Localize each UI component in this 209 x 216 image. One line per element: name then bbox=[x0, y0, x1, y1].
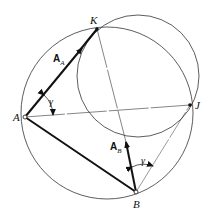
label-vector-A-A: AA bbox=[53, 54, 65, 67]
label-gamma-B: γ bbox=[141, 156, 145, 166]
label-vector-A-B: AB bbox=[110, 142, 122, 155]
line-B-J bbox=[136, 105, 190, 192]
label-gamma-A: γ bbox=[49, 97, 53, 107]
point-K bbox=[95, 27, 99, 31]
point-J bbox=[188, 103, 192, 107]
geometry-figure bbox=[0, 0, 209, 216]
label-K: K bbox=[90, 15, 97, 26]
label-A: A bbox=[13, 112, 20, 123]
vector-A-B bbox=[126, 142, 136, 192]
point-B bbox=[134, 190, 138, 194]
point-A bbox=[23, 115, 27, 119]
diagram: K A J B AA AB γ γ bbox=[0, 0, 209, 216]
label-B: B bbox=[133, 199, 140, 210]
label-J: J bbox=[195, 100, 200, 111]
small-circle bbox=[77, 15, 199, 137]
segment-A-K bbox=[80, 29, 97, 50]
